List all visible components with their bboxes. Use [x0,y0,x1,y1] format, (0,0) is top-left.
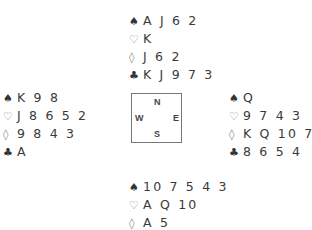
west-hearts: ♡J 8 6 5 2 [3,107,88,125]
spade-icon: ♠ [3,90,17,107]
heart-icon: ♡ [3,108,17,125]
west-diamonds: ◊9 8 4 3 [3,125,88,143]
heart-icon: ♡ [129,31,143,48]
east-hearts: ♡9 7 4 3 [229,107,312,125]
south-hearts: ♡A Q 10 [129,196,229,214]
club-icon: ♣ [129,67,143,84]
north-diamonds: ◊J 6 2 [129,48,214,66]
east-diamonds: ◊K Q 10 7 [229,125,312,143]
club-icon: ♣ [229,144,243,161]
diamond-icon: ◊ [129,49,143,66]
north-spades: ♠A J 6 2 [129,12,214,30]
compass-south-label: S [154,129,160,139]
north-hearts: ♡K [129,30,214,48]
heart-icon: ♡ [129,197,143,214]
spade-icon: ♠ [229,90,243,107]
east-clubs: ♣8 6 5 4 [229,143,312,161]
south-diamonds: ◊A 5 [129,214,229,230]
compass-north-label: N [154,97,161,107]
diamond-icon: ◊ [3,126,17,143]
diamond-icon: ◊ [229,126,243,143]
compass-box: N W E S [131,93,182,143]
east-hand: ♠Q ♡9 7 4 3 ◊K Q 10 7 ♣8 6 5 4 [229,89,312,161]
north-clubs: ♣K J 9 7 3 [129,66,214,84]
west-clubs: ♣A [3,143,88,161]
heart-icon: ♡ [229,108,243,125]
compass-west-label: W [135,113,144,123]
north-hand: ♠A J 6 2 ♡K ◊J 6 2 ♣K J 9 7 3 [129,12,214,84]
diamond-icon: ◊ [129,215,143,230]
west-spades: ♠K 9 8 [3,89,88,107]
west-hand: ♠K 9 8 ♡J 8 6 5 2 ◊9 8 4 3 ♣A [3,89,88,161]
spade-icon: ♠ [129,13,143,30]
south-hand: ♠10 7 5 4 3 ♡A Q 10 ◊A 5 ♣Q 10 2 [129,178,229,230]
compass-east-label: E [173,113,179,123]
east-spades: ♠Q [229,89,312,107]
south-spades: ♠10 7 5 4 3 [129,178,229,196]
spade-icon: ♠ [129,179,143,196]
club-icon: ♣ [3,144,17,161]
